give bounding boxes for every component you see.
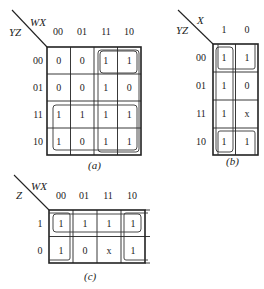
row-label: 10	[196, 136, 206, 147]
cell: 1	[59, 218, 64, 229]
row-var-label: Z	[16, 189, 23, 201]
row-label: 11	[33, 109, 43, 120]
cell: 1	[103, 109, 108, 120]
col-var-label: X	[196, 14, 205, 26]
col-label: 11	[101, 26, 111, 37]
group-loop	[53, 105, 137, 150]
cell: 1	[245, 136, 250, 147]
row-label: 1	[38, 218, 43, 229]
cell: 0	[245, 80, 250, 91]
col-label: 11	[103, 190, 113, 201]
cell: 1	[56, 109, 61, 120]
col-label: 1	[222, 24, 227, 35]
caption-b: (b)	[226, 155, 239, 167]
row-label: 0	[38, 245, 43, 256]
cell: 1	[127, 136, 132, 147]
row-label: 10	[33, 136, 43, 147]
col-var-label: WX	[30, 16, 47, 28]
cell: x	[107, 245, 112, 256]
cell: 0	[80, 55, 85, 66]
cell: 1	[131, 245, 136, 256]
col-label: 10	[127, 190, 137, 201]
cell: 1	[245, 52, 250, 63]
row-label: 01	[33, 82, 43, 93]
caption-c: (c)	[84, 270, 96, 282]
cell: 0	[127, 82, 132, 93]
row-label: 00	[33, 55, 43, 66]
row-label: 00	[196, 52, 206, 63]
row-label: 11	[196, 108, 206, 119]
col-var-label: WX	[31, 180, 48, 192]
cell: 1	[83, 218, 88, 229]
cell: 1	[131, 218, 136, 229]
cell: 1	[103, 82, 108, 93]
col-label: 00	[53, 26, 63, 37]
cell: 1	[222, 80, 227, 91]
row-var-label: YZ	[176, 24, 189, 36]
caption-a: (a)	[88, 159, 101, 171]
cell: 0	[56, 55, 61, 66]
cell: 1	[127, 55, 132, 66]
cell: 1	[56, 136, 61, 147]
cell: 1	[59, 245, 64, 256]
cell: 1	[80, 109, 85, 120]
cell: 0	[80, 136, 85, 147]
row-label: 01	[196, 80, 206, 91]
cell: 1	[103, 136, 108, 147]
cell: 0	[80, 82, 85, 93]
kmap-a: WX YZ 00 01 11 10 00 01 11 10 0 0 1 1 0 …	[9, 10, 141, 155]
cell: 0	[56, 82, 61, 93]
cell: 1	[107, 218, 112, 229]
cell: 1	[127, 109, 132, 120]
cell: x	[245, 108, 250, 119]
col-label: 01	[77, 26, 87, 37]
cell: 1	[222, 108, 227, 119]
col-label: 10	[124, 26, 134, 37]
col-label: 0	[245, 24, 250, 35]
kmap-b: X YZ 1 0 00 01 11 10 1 1 1 0 1 x 1 1	[176, 10, 258, 155]
col-label: 00	[56, 190, 66, 201]
col-label: 01	[79, 190, 89, 201]
cell: 1	[222, 52, 227, 63]
kmap-c: WX Z 00 01 11 10 1 0 1 1 1 1 1 0 x 1	[14, 175, 150, 263]
karnaugh-maps-figure: WX YZ 00 01 11 10 00 01 11 10 0 0 1 1 0 …	[0, 0, 264, 289]
row-var-label: YZ	[9, 26, 22, 38]
cell: 1	[103, 55, 108, 66]
cell: 1	[222, 136, 227, 147]
cell: 0	[83, 245, 88, 256]
